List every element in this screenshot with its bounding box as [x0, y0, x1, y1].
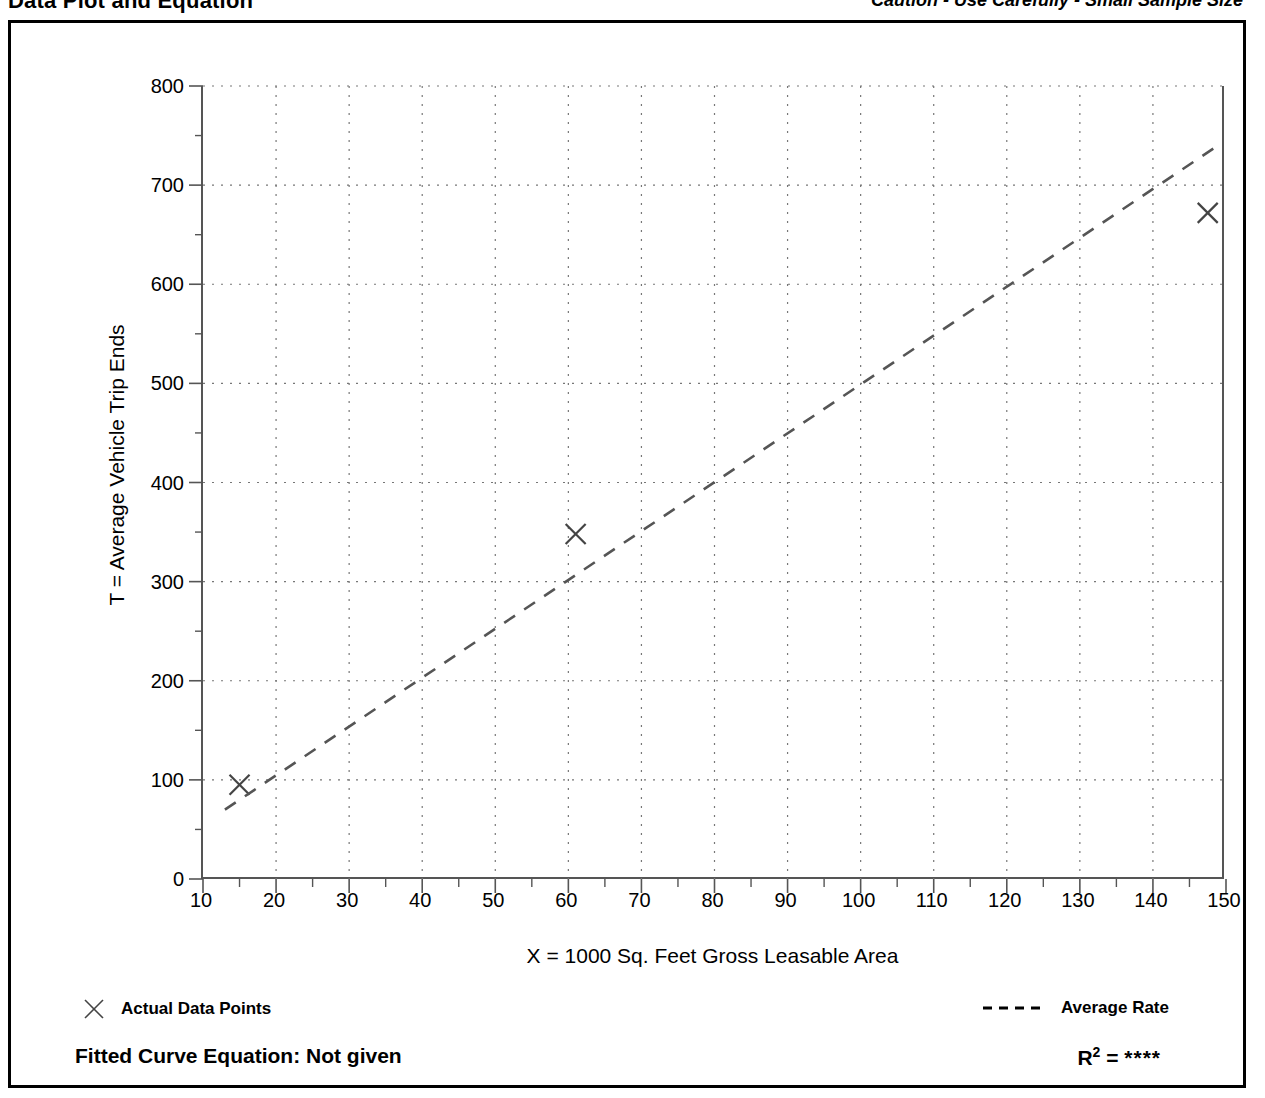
x-tick-label: 90 — [774, 889, 796, 912]
legend: Actual Data Points Average Rate — [11, 998, 1249, 1034]
y-tick-label: 600 — [151, 273, 184, 296]
data-point-marker — [230, 775, 250, 795]
x-axis-tick-labels: 102030405060708090100110120130140150 — [201, 889, 1224, 919]
caution-note: Caution - Use Carefully - Small Sample S… — [871, 0, 1243, 11]
page-title: Data Plot and Equation — [8, 0, 253, 14]
x-tick-label: 40 — [409, 889, 431, 912]
x-tick-label: 120 — [988, 889, 1021, 912]
plot-canvas — [203, 86, 1226, 879]
equation-row: Fitted Curve Equation: Not given R2 = **… — [11, 1044, 1249, 1084]
data-point-marker — [566, 524, 586, 544]
plot-area — [201, 86, 1224, 879]
x-tick-label: 50 — [482, 889, 504, 912]
dashed-line-icon — [983, 1006, 1045, 1010]
x-axis-title: X = 1000 Sq. Feet Gross Leasable Area — [201, 944, 1224, 968]
y-tick-label: 300 — [151, 570, 184, 593]
legend-label-average-rate: Average Rate — [1061, 998, 1169, 1018]
r-squared-equals: = — [1100, 1046, 1124, 1069]
y-tick-label: 200 — [151, 669, 184, 692]
trend-line-average-rate — [225, 147, 1215, 809]
r-squared-prefix: R — [1077, 1046, 1092, 1069]
x-tick-label: 80 — [701, 889, 723, 912]
header-strip: Data Plot and Equation Caution - Use Car… — [0, 0, 1265, 14]
x-tick-label: 30 — [336, 889, 358, 912]
fitted-curve-equation: Fitted Curve Equation: Not given — [75, 1044, 402, 1068]
y-tick-label: 700 — [151, 174, 184, 197]
legend-item-actual-data-points: Actual Data Points — [83, 998, 271, 1020]
x-tick-label: 60 — [555, 889, 577, 912]
y-tick-label: 500 — [151, 372, 184, 395]
x-tick-label: 10 — [190, 889, 212, 912]
legend-item-average-rate: Average Rate — [983, 998, 1169, 1018]
x-tick-label: 130 — [1061, 889, 1094, 912]
y-tick-label: 0 — [173, 868, 184, 891]
r-squared-value: R2 = **** — [1077, 1044, 1161, 1070]
x-tick-label: 70 — [628, 889, 650, 912]
y-axis-tick-labels: 0100200300400500600700800 — [121, 86, 184, 879]
y-tick-label: 400 — [151, 471, 184, 494]
x-tick-label: 100 — [842, 889, 875, 912]
y-tick-label: 100 — [151, 768, 184, 791]
y-tick-label: 800 — [151, 75, 184, 98]
y-axis-title-container: T = Average Vehicle Trip Ends — [69, 23, 99, 923]
r-squared-stars: **** — [1124, 1046, 1161, 1069]
data-point-marker — [1198, 203, 1218, 223]
x-tick-label: 110 — [916, 889, 948, 912]
legend-label-actual-data-points: Actual Data Points — [121, 999, 271, 1019]
x-tick-label: 150 — [1207, 889, 1240, 912]
x-tick-label: 20 — [263, 889, 285, 912]
x-marker-icon — [83, 998, 105, 1020]
figure-frame: T = Average Vehicle Trip Ends 0100200300… — [8, 20, 1246, 1088]
x-tick-label: 140 — [1134, 889, 1167, 912]
